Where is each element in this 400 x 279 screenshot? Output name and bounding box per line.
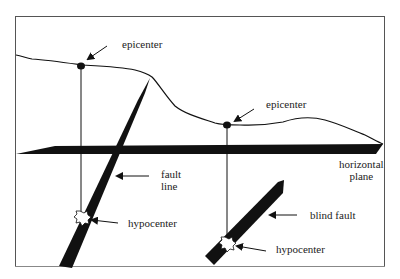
- diagram-canvas: [0, 0, 400, 279]
- blind-fault-shape: [205, 180, 284, 265]
- epicenter-1-dot: [77, 63, 85, 70]
- epicenter-label-2: epicenter: [266, 98, 306, 110]
- horizontal-plane: [16, 144, 383, 154]
- hypocenter-2-arrow: [237, 246, 266, 251]
- epicenter-1-arrow: [88, 46, 107, 59]
- horizontal-plane-label-2: plane: [339, 170, 384, 182]
- frame-border: [16, 17, 385, 128]
- epicenter-label-1: epicenter: [122, 38, 162, 50]
- fault-line-label-2: line: [161, 180, 181, 192]
- fault-line-label-1: fault: [161, 168, 181, 180]
- epicenter-2-arrow: [235, 109, 254, 121]
- blind-fault-label: blind fault: [310, 209, 356, 221]
- horizontal-plane-label: horizontal plane: [339, 158, 384, 182]
- fault-line-shape: [59, 78, 150, 268]
- hypocenter-1-arrow: [92, 220, 118, 223]
- ground-surface-line: [16, 55, 383, 144]
- fault-line-label: fault line: [161, 168, 181, 192]
- hypocenter-label-2: hypocenter: [276, 243, 325, 255]
- epicenter-2-dot: [223, 122, 231, 129]
- hypocenter-label-1: hypocenter: [128, 217, 177, 229]
- horizontal-plane-label-1: horizontal: [339, 158, 384, 170]
